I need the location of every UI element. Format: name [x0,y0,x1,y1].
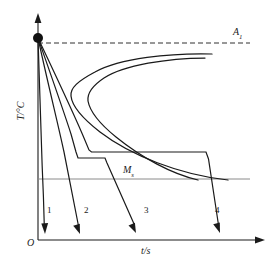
curve-label-4: 4 [215,206,220,215]
curve-label-1: 1 [47,206,52,215]
y-axis-label: T/°C [16,88,26,134]
austenitizing-start-point [33,33,43,43]
ttt-diagram-canvas [0,0,277,271]
a1-label: A1 [233,27,243,40]
curve-label-3: 3 [144,206,149,215]
x-axis-label: t/s [141,246,150,256]
origin-label: O [27,238,34,248]
ms-label: Ms [123,165,134,178]
curve-label-2: 2 [84,206,89,215]
